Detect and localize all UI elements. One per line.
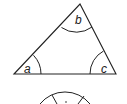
triangle-angles-diagram: a b c bbox=[0, 0, 127, 104]
angle-arc-b bbox=[62, 27, 93, 32]
angle-label-a: a bbox=[24, 62, 31, 76]
angle-label-b: b bbox=[75, 13, 82, 27]
partial-circle-shape bbox=[40, 92, 90, 104]
angle-label-c: c bbox=[101, 62, 107, 76]
angle-arc-a bbox=[34, 55, 42, 74]
